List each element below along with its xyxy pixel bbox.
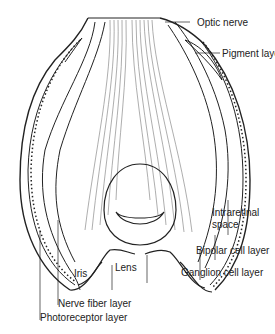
label-bipolar-cell-layer: Bipolar cell layer bbox=[196, 245, 269, 256]
retina-right bbox=[175, 22, 228, 268]
lens bbox=[104, 164, 176, 245]
label-intraretinal-2: space bbox=[212, 219, 239, 230]
label-intraretinal-1: Intraretinal bbox=[212, 207, 259, 218]
label-nerve-fiber-layer: Nerve fiber layer bbox=[58, 298, 131, 309]
label-lens: Lens bbox=[115, 262, 137, 273]
pigment-layer-left bbox=[20, 18, 88, 290]
label-photoreceptor-layer: Photoreceptor layer bbox=[40, 312, 127, 323]
label-ganglion-cell-layer: Ganglion cell layer bbox=[181, 267, 263, 278]
label-optic-nerve: Optic nerve bbox=[197, 17, 248, 28]
label-pigment-layer: Pigment layer bbox=[222, 48, 275, 59]
lens-crescent bbox=[116, 212, 164, 224]
label-iris: Iris bbox=[74, 268, 87, 279]
